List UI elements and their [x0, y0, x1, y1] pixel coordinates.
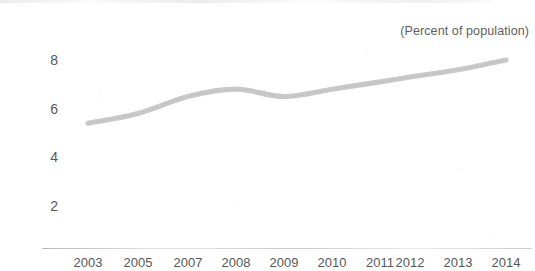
x-tick-label: 2008: [222, 256, 251, 269]
plot-area: [40, 16, 535, 271]
x-tick-label: 2011: [366, 256, 394, 269]
x-tick-label: 2013: [444, 256, 473, 269]
x-tick-label: 2005: [124, 256, 153, 269]
x-tick-label: 2012: [396, 256, 425, 269]
x-tick-label: 2009: [270, 256, 299, 269]
x-tick-label: 2014: [492, 256, 521, 269]
x-axis-line: [42, 248, 532, 249]
data-series-line: [40, 16, 535, 271]
x-tick-label: 2003: [74, 256, 103, 269]
x-tick-label: 2010: [318, 256, 347, 269]
scan-edge-artifact: [0, 0, 495, 3]
x-axis: 2003200520072008200920102011201220132014: [40, 256, 535, 271]
x-tick-label: 2007: [174, 256, 203, 269]
line-chart: (Percent of population) 8642 20032005200…: [40, 16, 535, 271]
